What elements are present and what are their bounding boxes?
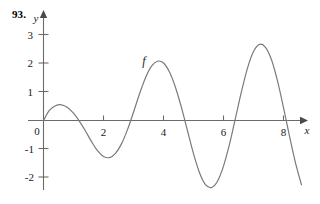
graph-svg: 0 2 4 6 8 3 2 1 -1 -2 x y f <box>0 0 320 204</box>
figure-container: 93. 0 2 4 6 8 <box>0 0 320 204</box>
y-tick-label-3: 3 <box>28 29 34 41</box>
x-tick-label-4: 4 <box>161 126 167 138</box>
x-tick-label-0: 0 <box>34 125 40 137</box>
curve-label-f: f <box>142 54 147 68</box>
y-tick-label-1: 1 <box>28 86 34 98</box>
x-axis <box>28 117 308 124</box>
y-axis-arrowhead <box>40 10 47 18</box>
y-axis <box>40 10 47 190</box>
y-tick-label-minus-2: -2 <box>25 171 34 183</box>
x-tick-label-8: 8 <box>281 126 287 138</box>
x-axis-label: x <box>304 124 310 136</box>
y-tick-label-minus-1: -1 <box>25 143 34 155</box>
x-tick-label-2: 2 <box>101 126 107 138</box>
x-tick-label-6: 6 <box>221 126 227 138</box>
problem-number-label: 93. <box>12 8 26 20</box>
y-axis-label: y <box>33 12 39 24</box>
y-tick-label-2: 2 <box>28 57 34 69</box>
function-curve <box>44 44 302 187</box>
